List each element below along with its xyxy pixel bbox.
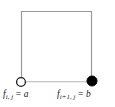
label-node-filled: fi+1, j = b (57, 90, 91, 101)
label-left-equals: = (13, 89, 23, 99)
node-filled-circle-icon (87, 76, 97, 86)
label-node-open: fi, j = a (3, 90, 29, 101)
label-left-value: a (24, 89, 29, 99)
label-right-value: b (86, 89, 91, 99)
node-open-circle-icon (17, 78, 26, 87)
figure-canvas: fi, j = a fi+1, j = b (0, 0, 115, 107)
cell-square (21, 11, 92, 82)
label-right-subscript: i+1, j (60, 93, 76, 100)
label-right-equals: = (76, 89, 86, 99)
